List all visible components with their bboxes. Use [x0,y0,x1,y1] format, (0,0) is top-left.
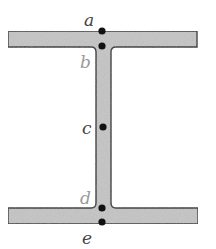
i-beam-diagram: abcde [0,0,216,249]
point-c-label: c [82,118,92,138]
point-b-marker [98,42,105,49]
point-d-label: d [80,188,91,208]
point-b-label: b [80,52,91,72]
point-a-marker [98,27,105,34]
point-a-label: a [84,10,94,30]
point-e-marker [98,218,105,225]
point-c-marker [99,123,106,130]
point-e-label: e [82,228,92,248]
point-d-marker [98,204,105,211]
